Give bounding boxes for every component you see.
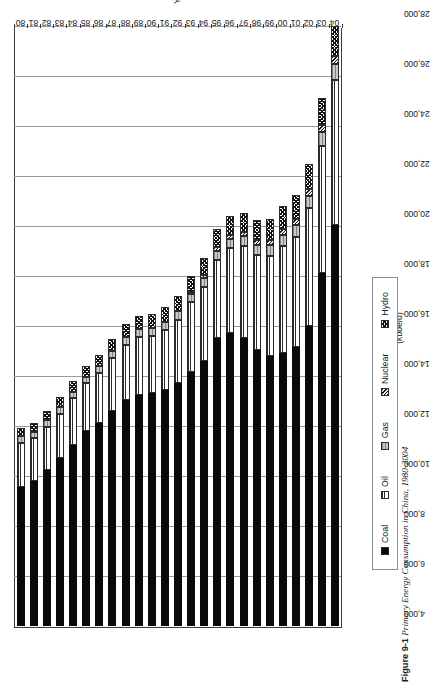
bar-segment-hydro[interactable] (161, 307, 169, 322)
bar-segment-gas[interactable] (122, 337, 130, 345)
bar-segment-oil[interactable] (331, 80, 339, 225)
legend-item-gas[interactable]: Gas (380, 422, 390, 450)
bar-segment-oil[interactable] (292, 237, 300, 347)
bar-segment-gas[interactable] (266, 246, 274, 257)
bar-stack[interactable] (82, 28, 90, 626)
bar-segment-coal[interactable] (95, 424, 103, 627)
legend-item-coal[interactable]: Coal (380, 525, 390, 555)
bar-stack[interactable] (122, 28, 130, 626)
bar-segment-hydro[interactable] (43, 411, 51, 421)
bar-segment-coal[interactable] (213, 339, 221, 627)
bar-segment-oil[interactable] (253, 255, 261, 350)
bar-segment-hydro[interactable] (148, 314, 156, 328)
bar-segment-gas[interactable] (43, 421, 51, 428)
bar-segment-hydro[interactable] (174, 296, 182, 312)
bar-segment-oil[interactable] (56, 414, 64, 459)
bar-segment-coal[interactable] (161, 390, 169, 626)
bar-stack[interactable] (279, 28, 287, 626)
bar-segment-gas[interactable] (240, 236, 248, 246)
bar-segment-coal[interactable] (253, 350, 261, 626)
bar-segment-oil[interactable] (213, 260, 221, 339)
bar-segment-coal[interactable] (331, 225, 339, 626)
bar-segment-oil[interactable] (82, 384, 90, 432)
bar-segment-oil[interactable] (279, 246, 287, 354)
bar-segment-oil[interactable] (148, 336, 156, 394)
bar-segment-nuclear[interactable] (331, 56, 339, 64)
bar-segment-gas[interactable] (161, 322, 169, 330)
bar-stack[interactable] (292, 28, 300, 626)
bar-stack[interactable] (135, 28, 143, 626)
bar-segment-gas[interactable] (226, 239, 234, 248)
bar-segment-gas[interactable] (213, 251, 221, 260)
bar-segment-nuclear[interactable] (240, 232, 248, 236)
bar-segment-oil[interactable] (187, 302, 195, 372)
bar-segment-oil[interactable] (43, 427, 51, 470)
bar-segment-gas[interactable] (292, 225, 300, 237)
bar-segment-coal[interactable] (43, 470, 51, 626)
bar-segment-hydro[interactable] (95, 355, 103, 367)
bar-segment-oil[interactable] (200, 287, 208, 361)
bar-segment-nuclear[interactable] (292, 219, 300, 225)
bar-segment-oil[interactable] (69, 399, 77, 445)
bar-segment-hydro[interactable] (279, 207, 287, 230)
bar-segment-gas[interactable] (279, 235, 287, 246)
bar-segment-gas[interactable] (331, 64, 339, 80)
bar-segment-hydro[interactable] (82, 366, 90, 377)
bar-segment-oil[interactable] (305, 209, 313, 327)
bar-segment-coal[interactable] (17, 487, 25, 626)
bar-segment-hydro[interactable] (240, 213, 248, 233)
bar-segment-coal[interactable] (187, 372, 195, 626)
bar-segment-oil[interactable] (30, 439, 38, 482)
bar-segment-hydro[interactable] (292, 196, 300, 220)
bar-segment-hydro[interactable] (200, 258, 208, 275)
bar-segment-coal[interactable] (69, 445, 77, 626)
bar-segment-nuclear[interactable] (213, 247, 221, 251)
bar-segment-nuclear[interactable] (200, 275, 208, 278)
bar-segment-oil[interactable] (135, 337, 143, 395)
bar-segment-gas[interactable] (135, 330, 143, 338)
bar-stack[interactable] (43, 28, 51, 626)
bar-segment-nuclear[interactable] (279, 229, 287, 235)
legend-item-hydro[interactable]: Hydro (380, 292, 390, 327)
bar-segment-hydro[interactable] (108, 339, 116, 351)
bar-segment-hydro[interactable] (187, 276, 195, 292)
bar-segment-gas[interactable] (95, 367, 103, 374)
bar-segment-coal[interactable] (200, 361, 208, 626)
bar-segment-oil[interactable] (108, 359, 116, 412)
bar-segment-coal[interactable] (108, 411, 116, 626)
legend-item-nuclear[interactable]: Nuclear (380, 354, 390, 396)
bar-segment-gas[interactable] (17, 437, 25, 444)
bar-segment-gas[interactable] (305, 196, 313, 209)
bar-stack[interactable] (56, 28, 64, 626)
bar-segment-coal[interactable] (292, 347, 300, 626)
bar-segment-hydro[interactable] (226, 217, 234, 236)
bar-segment-hydro[interactable] (56, 398, 64, 408)
bar-stack[interactable] (253, 28, 261, 626)
bar-segment-gas[interactable] (108, 351, 116, 358)
bar-segment-hydro[interactable] (30, 423, 38, 432)
bar-segment-oil[interactable] (95, 374, 103, 424)
bar-segment-oil[interactable] (122, 345, 130, 400)
bar-stack[interactable] (187, 28, 195, 626)
bar-stack[interactable] (148, 28, 156, 626)
bar-stack[interactable] (213, 28, 221, 626)
bar-segment-coal[interactable] (318, 274, 326, 627)
bar-segment-coal[interactable] (56, 459, 64, 627)
bar-stack[interactable] (305, 28, 313, 626)
bar-segment-oil[interactable] (174, 320, 182, 384)
bar-segment-coal[interactable] (82, 431, 90, 626)
bar-segment-coal[interactable] (148, 394, 156, 627)
bar-segment-oil[interactable] (226, 249, 234, 334)
bar-segment-hydro[interactable] (69, 381, 77, 392)
bar-segment-coal[interactable] (226, 334, 234, 627)
bar-segment-oil[interactable] (266, 256, 274, 356)
bar-segment-gas[interactable] (56, 408, 64, 415)
bar-stack[interactable] (200, 28, 208, 626)
bar-stack[interactable] (174, 28, 182, 626)
bar-segment-gas[interactable] (82, 377, 90, 384)
bar-stack[interactable] (17, 28, 25, 626)
bar-segment-hydro[interactable] (213, 229, 221, 247)
bar-segment-hydro[interactable] (266, 219, 274, 241)
bar-segment-nuclear[interactable] (318, 125, 326, 133)
bar-stack[interactable] (240, 28, 248, 626)
